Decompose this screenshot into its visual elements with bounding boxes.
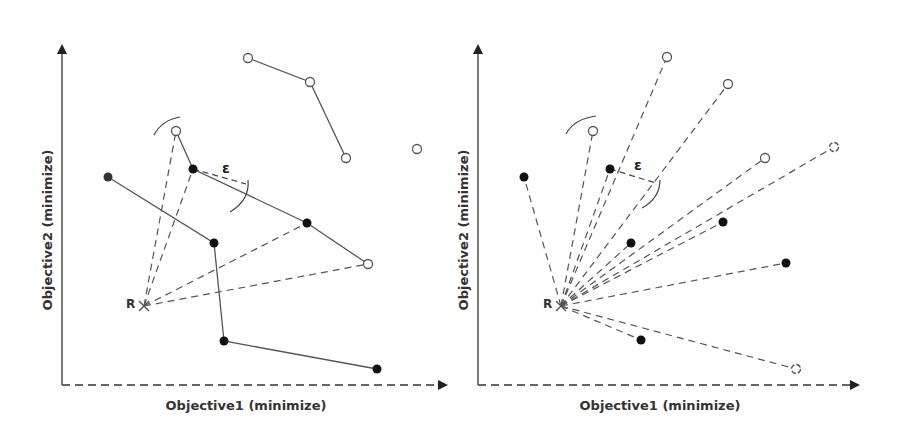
- right-hollow-points: [589, 53, 839, 374]
- right-panel: Objective1 (minimize) Objective2 (minimi…: [456, 46, 858, 413]
- left-reference-label: R: [126, 297, 135, 311]
- right-dashed-rays: [524, 57, 834, 369]
- left-filled-points: [104, 165, 382, 374]
- left-solid-fronts: [108, 58, 377, 369]
- right-reference-label: R: [543, 297, 552, 311]
- right-reference-point: [556, 301, 566, 311]
- left-x-axis-label: Objective1 (minimize): [166, 398, 327, 413]
- left-reference-point: [139, 301, 149, 311]
- right-epsilon-marker: [566, 116, 660, 208]
- right-filled-points: [520, 165, 791, 345]
- diagram-canvas: Objective1 (minimize) Objective2 (minimi…: [0, 0, 907, 428]
- right-epsilon-label: ε: [634, 157, 642, 173]
- left-epsilon-marker: [154, 117, 248, 212]
- right-y-axis-label: Objective2 (minimize): [456, 150, 471, 311]
- left-dashed-rays: [144, 131, 368, 306]
- left-y-axis-label: Objective2 (minimize): [40, 150, 55, 311]
- left-hollow-points: [172, 54, 422, 269]
- figure: Objective1 (minimize) Objective2 (minimi…: [0, 0, 907, 428]
- left-panel: Objective1 (minimize) Objective2 (minimi…: [40, 46, 446, 413]
- left-epsilon-label: ε: [222, 160, 230, 176]
- right-x-axis-label: Objective1 (minimize): [580, 398, 741, 413]
